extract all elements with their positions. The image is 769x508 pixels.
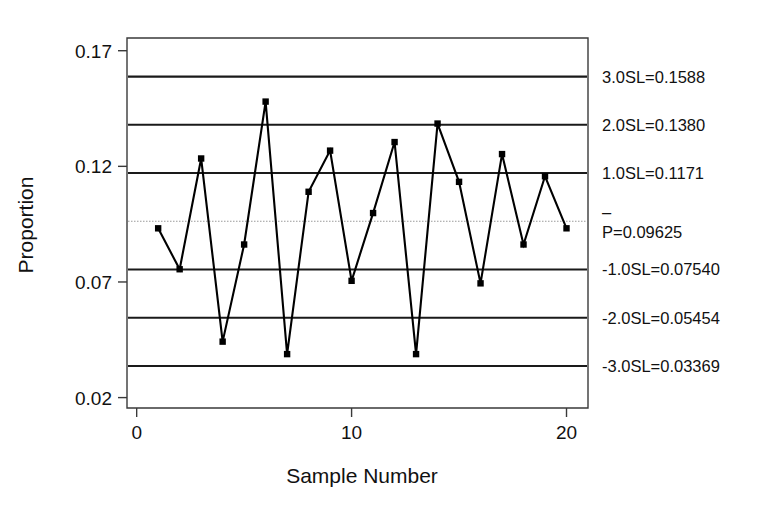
control-limit-label-center: P=0.09625 — [602, 223, 682, 241]
data-point-6 — [262, 98, 268, 104]
data-point-14 — [434, 120, 440, 126]
data-point-20 — [563, 225, 569, 231]
data-point-4 — [219, 338, 225, 344]
y-tick-label-0.17: 0.17 — [75, 41, 112, 62]
x-axis-tick-labels: 01020 — [131, 422, 577, 443]
data-point-18 — [520, 241, 526, 247]
data-series — [158, 102, 566, 355]
control-limit-label-sl_plus_1: 1.0SL=0.1171 — [602, 164, 704, 182]
x-tick-label-10: 10 — [341, 422, 362, 443]
data-point-19 — [542, 173, 548, 179]
x-tick-label-20: 20 — [556, 422, 577, 443]
y-axis-title: Proportion — [14, 177, 37, 274]
data-point-5 — [241, 241, 247, 247]
y-axis-tick-labels: 0.020.070.120.17 — [75, 41, 112, 409]
y-tick-label-0.12: 0.12 — [75, 156, 112, 177]
data-point-10 — [348, 278, 354, 284]
data-point-15 — [456, 179, 462, 185]
data-point-1 — [155, 225, 161, 231]
data-point-9 — [327, 147, 333, 153]
control-limit-label-sl_minus_2: -2.0SL=0.05454 — [602, 309, 720, 327]
data-point-8 — [305, 189, 311, 195]
data-point-12 — [391, 139, 397, 145]
control-limit-labels: 3.0SL=0.15882.0SL=0.13801.0SL=0.1171–P=0… — [602, 68, 720, 375]
y-axis-ticks — [118, 51, 127, 398]
control-limit-label-sl_minus_3: -3.0SL=0.03369 — [602, 357, 720, 375]
data-point-7 — [284, 351, 290, 357]
x-axis-ticks — [137, 408, 567, 417]
control-chart: 01020 0.020.070.120.17 3.0SL=0.15882.0SL… — [0, 0, 769, 508]
data-point-13 — [413, 351, 419, 357]
p-chart-svg: 01020 0.020.070.120.17 3.0SL=0.15882.0SL… — [0, 0, 769, 508]
data-point-16 — [477, 280, 483, 286]
data-point-11 — [370, 210, 376, 216]
control-limit-label-sl_minus_1: -1.0SL=0.07540 — [602, 260, 720, 278]
control-limit-label-sl_plus_3: 3.0SL=0.1588 — [602, 68, 705, 86]
control-limit-overbar-center: – — [602, 203, 612, 221]
data-point-3 — [198, 155, 204, 161]
y-tick-label-0.02: 0.02 — [75, 388, 112, 409]
data-point-2 — [176, 266, 182, 272]
x-tick-label-0: 0 — [131, 422, 142, 443]
control-limit-label-sl_plus_2: 2.0SL=0.1380 — [602, 116, 705, 134]
x-axis-title: Sample Number — [286, 464, 438, 487]
series-polyline-proportion — [158, 102, 566, 355]
y-tick-label-0.07: 0.07 — [75, 272, 112, 293]
data-point-17 — [499, 151, 505, 157]
